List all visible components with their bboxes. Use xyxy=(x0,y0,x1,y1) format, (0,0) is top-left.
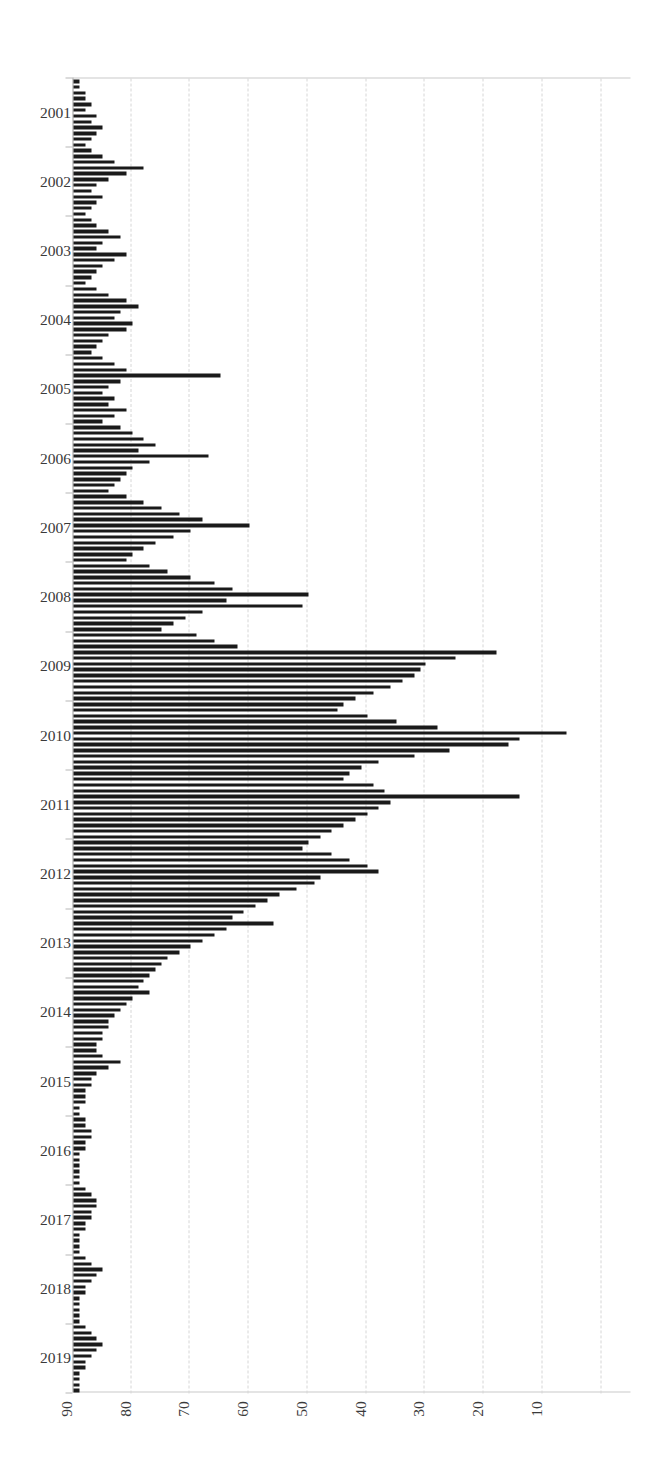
year-tick-2007 xyxy=(65,492,72,493)
bar xyxy=(73,1210,91,1213)
bar xyxy=(73,200,96,203)
year-tick-2015 xyxy=(65,1046,72,1047)
bar xyxy=(73,120,91,123)
bar xyxy=(73,990,149,993)
year-label-2015: 2015 xyxy=(40,1072,71,1090)
year-tick-2019 xyxy=(65,1323,72,1324)
bar xyxy=(73,610,202,613)
bar xyxy=(73,794,519,797)
bar xyxy=(73,396,114,399)
gridline-80 xyxy=(541,78,542,1393)
year-label-2003: 2003 xyxy=(40,241,71,259)
bar xyxy=(73,160,114,163)
bar xyxy=(73,858,349,861)
value-label-70: 70 xyxy=(175,1401,193,1417)
bar xyxy=(73,1060,120,1063)
bar xyxy=(73,621,173,624)
bar xyxy=(73,1204,96,1207)
bar xyxy=(73,1377,79,1380)
bar xyxy=(73,293,108,296)
bar xyxy=(73,512,179,515)
year-tick-2001 xyxy=(65,77,72,78)
bar xyxy=(73,898,267,901)
bar xyxy=(73,137,91,140)
bar xyxy=(73,339,102,342)
year-tick-2003 xyxy=(65,215,72,216)
gridline-20 xyxy=(188,78,189,1393)
year-tick-2005 xyxy=(65,354,72,355)
bar xyxy=(73,500,143,503)
rotated-chart-wrapper: 2001200220032004200520062007200820092010… xyxy=(35,77,630,1392)
bar xyxy=(73,985,138,988)
year-label-2004: 2004 xyxy=(40,310,71,328)
bar xyxy=(73,1002,126,1005)
gridline-10 xyxy=(130,78,131,1393)
bar xyxy=(73,846,302,849)
bar xyxy=(73,356,102,359)
bar xyxy=(73,575,190,578)
year-tick-2009 xyxy=(65,631,72,632)
year-label-2001: 2001 xyxy=(40,103,71,121)
bar xyxy=(73,344,96,347)
bar xyxy=(73,944,190,947)
bar xyxy=(73,558,126,561)
year-tick-2011 xyxy=(65,769,72,770)
bar xyxy=(73,287,96,290)
bar xyxy=(73,212,85,215)
bar xyxy=(73,644,237,647)
bar xyxy=(73,1365,85,1368)
value-label-40: 40 xyxy=(352,1401,370,1417)
bar xyxy=(73,1054,102,1057)
gridline-90 xyxy=(600,78,601,1393)
bar xyxy=(73,564,149,567)
bar xyxy=(73,1083,91,1086)
bar xyxy=(73,737,519,740)
year-tick-2016 xyxy=(65,1115,72,1116)
bar xyxy=(73,264,102,267)
bar xyxy=(73,177,108,180)
bar xyxy=(73,114,96,117)
bar xyxy=(73,1025,108,1028)
year-label-2013: 2013 xyxy=(40,933,71,951)
bar xyxy=(73,1256,85,1259)
year-label-2007: 2007 xyxy=(40,518,71,536)
bar xyxy=(73,875,320,878)
year-label-2002: 2002 xyxy=(40,172,71,190)
year-label-2017: 2017 xyxy=(40,1210,71,1228)
bar xyxy=(73,1290,85,1293)
bar xyxy=(73,148,91,151)
bar xyxy=(73,667,420,670)
bar xyxy=(73,96,85,99)
year-label-2005: 2005 xyxy=(40,379,71,397)
value-label-60: 60 xyxy=(234,1401,252,1417)
bar xyxy=(73,1140,85,1143)
bar xyxy=(73,241,102,244)
bar xyxy=(73,1019,108,1022)
bar xyxy=(73,1071,96,1074)
bar xyxy=(73,1100,85,1103)
bar xyxy=(73,143,85,146)
bar xyxy=(73,1354,91,1357)
bar xyxy=(73,437,143,440)
bar xyxy=(73,385,108,388)
bar xyxy=(73,402,108,405)
bar xyxy=(73,1169,79,1172)
bar xyxy=(73,316,114,319)
bar xyxy=(73,967,155,970)
gridline-30 xyxy=(247,78,248,1393)
bar xyxy=(73,915,232,918)
gridline-50 xyxy=(365,78,366,1393)
bar xyxy=(73,1048,96,1051)
bar xyxy=(73,806,378,809)
bar xyxy=(73,460,149,463)
year-tick-2014 xyxy=(65,977,72,978)
bar xyxy=(73,541,155,544)
bar xyxy=(73,454,208,457)
year-label-2014: 2014 xyxy=(40,1002,71,1020)
bar xyxy=(73,650,496,653)
bar xyxy=(73,696,355,699)
bar xyxy=(73,783,373,786)
bar xyxy=(73,1313,79,1316)
bar xyxy=(73,1175,79,1178)
bar xyxy=(73,1348,96,1351)
